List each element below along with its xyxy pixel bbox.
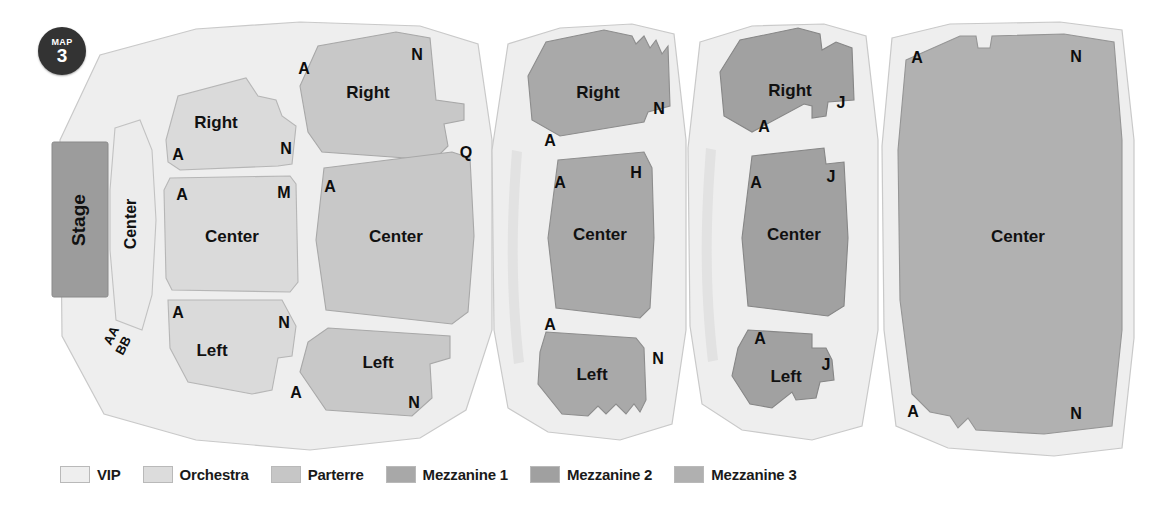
mezzanine1-right-row-near: A [544, 132, 556, 149]
mezzanine2-right-row-far: J [837, 94, 846, 111]
legend-item-mezzanine-1[interactable]: Mezzanine 1 [386, 466, 508, 483]
orchestra-right-row-far: N [280, 140, 292, 157]
orchestra-right-row-near: A [172, 146, 184, 163]
legend-label-mezzanine-1: Mezzanine 1 [423, 466, 508, 483]
parterre-left-row-near: A [290, 384, 302, 401]
mezzanine3-tier: Center A N A N [898, 34, 1122, 434]
orchestra-left-row-near: A [172, 304, 184, 321]
stage-label: Stage [68, 194, 89, 246]
legend-label-orchestra: Orchestra [180, 466, 249, 483]
mezzanine3-center-label: Center [991, 227, 1045, 246]
mezzanine2-center-label: Center [767, 225, 821, 244]
orchestra-center-label: Center [205, 227, 259, 246]
mezzanine1-right-row-far: N [653, 100, 665, 117]
parterre-center-label: Center [369, 227, 423, 246]
mezzanine2-center-row-far: J [827, 168, 836, 185]
mezzanine1-left-row-near: A [544, 316, 556, 333]
legend-swatch-mezzanine-2 [530, 466, 560, 483]
mezzanine2-left-row-near: A [754, 330, 766, 347]
legend-swatch-vip [60, 466, 90, 483]
mezzanine2-right-row-near: A [758, 118, 770, 135]
legend-swatch-mezzanine-1 [386, 466, 416, 483]
legend-label-mezzanine-3: Mezzanine 3 [711, 466, 796, 483]
mezzanine1-center-row-near: A [554, 174, 566, 191]
legend-item-vip[interactable]: VIP [60, 466, 121, 483]
orchestra-right-label: Right [194, 113, 238, 132]
vip-center-label: Center [122, 199, 139, 250]
legend-swatch-orchestra [143, 466, 173, 483]
orchestra-center-row-near: A [176, 186, 188, 203]
legend-swatch-mezzanine-3 [674, 466, 704, 483]
orchestra-left-label: Left [196, 341, 228, 360]
legend-label-mezzanine-2: Mezzanine 2 [567, 466, 652, 483]
map-badge-number: 3 [57, 46, 68, 65]
mezzanine2-center-row-near: A [750, 174, 762, 191]
seating-map-canvas: Stage Center AA BB Right A N Center A M … [0, 0, 1162, 508]
legend-swatch-parterre [271, 466, 301, 483]
mezzanine3-row-far-bottom: N [1070, 405, 1082, 422]
legend-item-orchestra[interactable]: Orchestra [143, 466, 249, 483]
parterre-right-row-far: N [411, 46, 423, 63]
legend-item-parterre[interactable]: Parterre [271, 466, 364, 483]
mezzanine3-row-near-top: A [911, 49, 923, 66]
parterre-right-row-near: A [298, 60, 310, 77]
parterre-right-label: Right [346, 83, 390, 102]
mezzanine3-row-far-top: N [1070, 48, 1082, 65]
parterre-center-row-far: Q [460, 144, 472, 161]
mezzanine2-right-label: Right [768, 81, 812, 100]
legend-item-mezzanine-2[interactable]: Mezzanine 2 [530, 466, 652, 483]
orchestra-center-row-far: M [277, 184, 290, 201]
parterre-center-row-near: A [324, 178, 336, 195]
mezzanine1-right-label: Right [576, 83, 620, 102]
parterre-left-label: Left [362, 353, 394, 372]
orchestra-left-row-far: N [278, 314, 290, 331]
legend-item-mezzanine-3[interactable]: Mezzanine 3 [674, 466, 796, 483]
seating-map: Stage Center AA BB Right A N Center A M … [0, 0, 1162, 508]
legend-label-vip: VIP [97, 466, 121, 483]
parterre-left-row-far: N [408, 394, 420, 411]
mezzanine1-left-label: Left [576, 365, 608, 384]
map-number-badge[interactable]: MAP 3 [38, 27, 86, 75]
mezzanine2-left-row-far: J [822, 356, 831, 373]
mezzanine1-center-row-far: H [630, 164, 642, 181]
orchestra-tier: Right A N Center A M Left A N [164, 78, 298, 394]
legend: VIP Orchestra Parterre Mezzanine 1 Mezza… [60, 466, 819, 483]
mezzanine1-left-row-far: N [652, 350, 664, 367]
legend-label-parterre: Parterre [308, 466, 364, 483]
mezzanine1-center-label: Center [573, 225, 627, 244]
mezzanine3-row-near-bottom: A [907, 403, 919, 420]
mezzanine2-left-label: Left [770, 367, 802, 386]
